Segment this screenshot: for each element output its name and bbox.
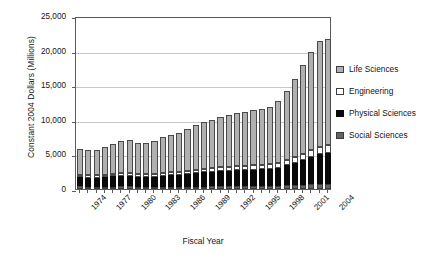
bar-1974[interactable]: [77, 149, 83, 189]
bar-2001[interactable]: [300, 65, 306, 189]
bar-1995[interactable]: [250, 110, 256, 189]
bar-segment: [250, 170, 256, 187]
social-sciences-swatch: [336, 132, 344, 139]
bar-segment: [284, 165, 290, 185]
bar-1997[interactable]: [267, 107, 273, 189]
bar-segment: [160, 137, 166, 173]
bar-1985[interactable]: [168, 135, 174, 189]
bar-segment: [292, 157, 298, 163]
bar-segment: [184, 187, 190, 189]
legend-item-social-sciences[interactable]: Social Sciences: [336, 124, 440, 146]
bar-segment: [201, 122, 207, 168]
legend-item-life-sciences[interactable]: Life Sciences: [336, 58, 440, 80]
bar-segment: [209, 120, 215, 168]
bar-1993[interactable]: [234, 113, 240, 189]
engineering-swatch: [336, 88, 344, 95]
bar-1999[interactable]: [284, 91, 290, 189]
bar-segment: [160, 176, 166, 187]
y-axis-tick-label: 15,000: [20, 82, 66, 90]
x-axis-tick-label: 1992: [238, 193, 257, 212]
x-axis-tick-labels: 1974197719801983198619891992199519982001…: [75, 193, 331, 233]
bar-segment: [102, 147, 108, 175]
bar-segment: [317, 41, 323, 147]
bar-segment: [151, 177, 157, 187]
bar-segment: [118, 173, 124, 176]
bar-1986[interactable]: [176, 133, 182, 189]
bar-segment: [193, 125, 199, 169]
bar-segment: [160, 173, 166, 176]
y-axis-tick-label: 5,000: [20, 151, 66, 159]
bar-segment: [176, 187, 182, 189]
bar-segment: [242, 170, 248, 186]
physical-sciences-swatch: [336, 110, 344, 117]
bar-segment: [226, 171, 232, 187]
bar-segment: [77, 177, 83, 186]
bar-segment: [143, 174, 149, 177]
bar-1980[interactable]: [127, 140, 133, 189]
bar-series-group: [76, 18, 330, 189]
legend-item-physical-sciences[interactable]: Physical Sciences: [336, 102, 440, 124]
y-axis-tick-label: 0: [20, 186, 66, 194]
bar-2004[interactable]: [325, 39, 331, 189]
bar-segment: [77, 186, 83, 189]
bar-2000[interactable]: [292, 79, 298, 189]
bar-1988[interactable]: [193, 125, 199, 189]
y-axis-tick-label: 20,000: [20, 48, 66, 56]
bar-segment: [110, 174, 116, 176]
bar-segment: [151, 174, 157, 177]
bar-segment: [292, 79, 298, 157]
bar-segment: [127, 173, 133, 176]
bar-segment: [193, 187, 199, 189]
x-axis-tick-label: 1998: [288, 193, 307, 212]
x-axis-tick-label: 1977: [114, 193, 133, 212]
bar-segment: [168, 187, 174, 189]
bar-segment: [201, 172, 207, 186]
bar-2002[interactable]: [308, 52, 314, 189]
bar-1994[interactable]: [242, 112, 248, 189]
bar-segment: [275, 168, 281, 186]
bar-segment: [292, 185, 298, 189]
bar-1990[interactable]: [209, 120, 215, 189]
bar-2003[interactable]: [317, 41, 323, 189]
x-axis-tick-label: 1983: [164, 193, 183, 212]
bar-segment: [250, 186, 256, 189]
bar-segment: [300, 154, 306, 161]
bar-segment: [217, 117, 223, 167]
bar-segment: [135, 177, 141, 187]
chart-legend: Life SciencesEngineeringPhysical Science…: [336, 58, 440, 146]
x-axis-tick-label: 1974: [89, 193, 108, 212]
bar-segment: [317, 147, 323, 155]
bar-1989[interactable]: [201, 122, 207, 189]
legend-item-engineering[interactable]: Engineering: [336, 80, 440, 102]
y-axis-tick-labels: 05,00010,00015,00020,00025,000: [18, 0, 66, 255]
bar-1982[interactable]: [143, 143, 149, 189]
bar-segment: [308, 150, 314, 157]
bar-segment: [127, 176, 133, 187]
bar-1983[interactable]: [151, 141, 157, 189]
x-axis-tick-label: 1980: [139, 193, 158, 212]
bar-segment: [127, 140, 133, 173]
bar-1979[interactable]: [118, 141, 124, 189]
bar-segment: [308, 157, 314, 184]
bar-1984[interactable]: [160, 137, 166, 189]
x-axis-title: Fiscal Year: [75, 236, 331, 246]
bar-1977[interactable]: [102, 147, 108, 189]
bar-segment: [85, 187, 91, 189]
bar-1991[interactable]: [217, 117, 223, 189]
bar-1981[interactable]: [135, 143, 141, 189]
bar-1975[interactable]: [85, 150, 91, 189]
bar-segment: [193, 170, 199, 174]
bar-1978[interactable]: [110, 144, 116, 189]
bar-1987[interactable]: [184, 129, 190, 189]
bar-1976[interactable]: [94, 150, 100, 189]
bar-segment: [226, 115, 232, 167]
bar-segment: [176, 175, 182, 187]
bar-segment: [317, 154, 323, 184]
bar-1992[interactable]: [226, 115, 232, 189]
stacked-bar-chart: Constant 2004 Dollars (Millions) 05,0001…: [0, 0, 441, 255]
bar-1996[interactable]: [259, 109, 265, 189]
bar-segment: [85, 175, 91, 177]
bar-1998[interactable]: [275, 101, 281, 189]
bar-segment: [226, 186, 232, 189]
bar-segment: [209, 172, 215, 186]
